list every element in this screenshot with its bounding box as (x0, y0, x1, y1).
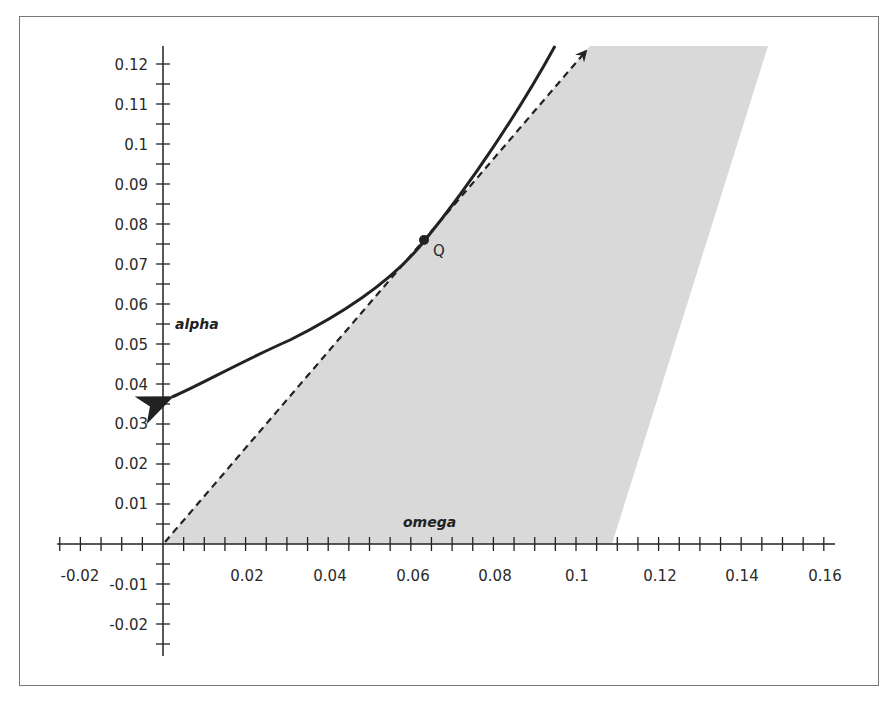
y-tick-label: 0.12 (115, 56, 148, 74)
x-tick-label: 0.14 (725, 567, 758, 585)
y-tick-label: 0.02 (115, 455, 148, 473)
x-tick-label: 0.02 (230, 567, 263, 585)
y-tick-label: 0.04 (115, 376, 148, 394)
y-tick-label: 0.07 (115, 256, 148, 274)
x-tick-labels: -0.02 0.02 0.04 0.06 0.08 0.1 0.12 0.14 … (61, 567, 842, 585)
y-tick-label: 0.08 (115, 216, 148, 234)
y-tick-label: 0.03 (115, 415, 148, 433)
chart-svg: -0.02 0.02 0.04 0.06 0.08 0.1 0.12 0.14 … (0, 0, 896, 702)
y-tick-label: 0.05 (115, 336, 148, 354)
alpha-axis-label: alpha (175, 316, 219, 332)
x-tick-label: -0.02 (61, 567, 100, 585)
y-tick-label: 0.11 (115, 96, 148, 114)
x-tick-label: 0.08 (478, 567, 511, 585)
y-tick-label: 0.01 (115, 495, 148, 513)
x-tick-label: 0.06 (396, 567, 429, 585)
y-tick-label: -0.01 (109, 576, 148, 594)
shaded-region (163, 46, 768, 544)
y-tick-label: 0.06 (115, 296, 148, 314)
point-q-marker (419, 235, 429, 245)
x-tick-label: 0.12 (643, 567, 676, 585)
y-tick-label: 0.1 (124, 136, 148, 154)
y-tick-label: 0.09 (115, 176, 148, 194)
x-tick-label: 0.1 (565, 567, 589, 585)
point-q-label: Q (433, 242, 445, 260)
x-tick-label: 0.04 (313, 567, 346, 585)
y-tick-label: -0.02 (109, 616, 148, 634)
omega-axis-label: omega (403, 514, 456, 530)
x-tick-label: 0.16 (808, 567, 841, 585)
